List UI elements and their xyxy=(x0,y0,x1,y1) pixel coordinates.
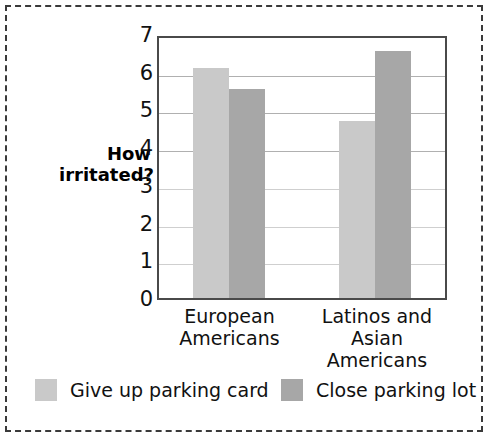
legend-item-close-parking-lot: Close parking lot xyxy=(281,379,476,401)
x-label-0-line-2: Americans xyxy=(157,327,302,349)
y-axis-tick-labels: 0 1 2 3 4 5 6 7 xyxy=(127,36,153,300)
bar-latinos-asian-americans-give-up-parking-card xyxy=(339,121,375,298)
y-tick-6: 6 xyxy=(127,63,153,84)
bar-chart: How irritated? 0 1 2 3 4 5 6 7 xyxy=(7,7,485,434)
chart-legend: Give up parking card Close parking lot xyxy=(21,379,471,411)
x-axis-label-latinos-and-asian-americans: Latinos and Asian Americans xyxy=(302,305,452,371)
x-axis-label-european-americans: European Americans xyxy=(157,305,302,349)
legend-label-close-parking-lot: Close parking lot xyxy=(316,379,476,401)
y-tick-1: 1 xyxy=(127,251,153,272)
y-tick-5: 5 xyxy=(127,100,153,121)
y-tick-7: 7 xyxy=(127,25,153,46)
plot-area xyxy=(157,36,447,300)
x-label-1-line-1: Latinos and Asian xyxy=(302,305,452,349)
bar-european-americans-close-parking-lot xyxy=(229,89,265,298)
bar-european-americans-give-up-parking-card xyxy=(193,68,229,298)
x-label-0-line-1: European xyxy=(157,305,302,327)
y-tick-3: 3 xyxy=(127,176,153,197)
legend-label-give-up-parking-card: Give up parking card xyxy=(70,379,269,401)
y-tick-0: 0 xyxy=(127,289,153,310)
bar-latinos-asian-americans-close-parking-lot xyxy=(375,51,411,298)
figure-dashed-border: How irritated? 0 1 2 3 4 5 6 7 xyxy=(5,5,483,432)
x-label-1-line-2: Americans xyxy=(302,349,452,371)
legend-item-give-up-parking-card: Give up parking card xyxy=(35,379,269,401)
legend-swatch-icon-close-parking-lot xyxy=(281,379,303,401)
legend-swatch-icon-give-up-parking-card xyxy=(35,379,57,401)
y-tick-4: 4 xyxy=(127,138,153,159)
y-tick-2: 2 xyxy=(127,214,153,235)
